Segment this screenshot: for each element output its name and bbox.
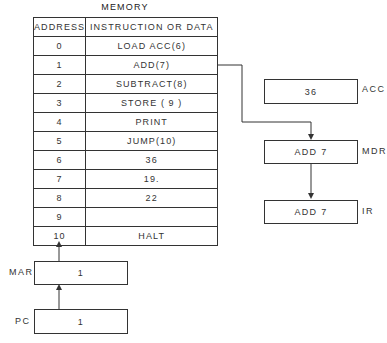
acc-register: 36 xyxy=(264,79,358,104)
mdr-register: ADD 7 xyxy=(264,140,358,164)
acc-value: 36 xyxy=(305,87,318,97)
pc-value: 1 xyxy=(78,317,84,327)
memory-arrowhead-icon xyxy=(56,241,62,247)
mdr-value: ADD 7 xyxy=(294,147,327,157)
mar-value: 1 xyxy=(78,268,84,278)
mdr-label: MDR xyxy=(362,146,387,156)
ir-register: ADD 7 xyxy=(264,200,358,224)
ir-value: ADD 7 xyxy=(294,207,327,217)
pc-register: 1 xyxy=(34,309,128,334)
mar-label: MAR xyxy=(9,267,34,277)
acc-label: ACC xyxy=(362,84,386,94)
ir-arrowhead-icon xyxy=(308,193,314,199)
connector-arrows xyxy=(0,0,387,343)
ir-label: IR xyxy=(362,206,374,216)
mar-register: 1 xyxy=(34,261,128,285)
pc-label: PC xyxy=(15,316,31,326)
